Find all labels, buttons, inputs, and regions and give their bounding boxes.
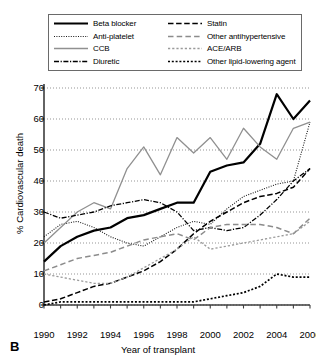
legend-item-ace-arb: ACE/ARB — [167, 43, 307, 56]
legend-line-sample — [167, 57, 203, 66]
x-tick-label: 1998 — [160, 330, 194, 340]
x-tick-label: 1990 — [27, 330, 61, 340]
legend-item-label: Diuretic — [93, 57, 119, 66]
legend-item-anti-platelet: Anti-platelet — [53, 30, 167, 43]
legend-item-label: Statin — [207, 19, 227, 28]
x-tick-label: 1994 — [94, 330, 128, 340]
x-tick-label: 1996 — [127, 330, 161, 340]
legend-item-label: Anti-platelet — [93, 32, 134, 41]
legend-item-diuretic: Diuretic — [53, 55, 167, 68]
series-line-ccb — [44, 122, 310, 243]
y-tick-label: 50 — [24, 146, 44, 154]
y-tick-label: 10 — [24, 270, 44, 278]
x-tick-label: 2006 — [293, 330, 316, 340]
y-axis-ticks: 010203040506070 — [22, 78, 44, 328]
legend-item-statin: Statin — [167, 17, 307, 30]
x-tick-label: 2004 — [260, 330, 294, 340]
y-tick-label: 30 — [24, 208, 44, 216]
y-tick-label: 0 — [24, 301, 44, 309]
legend-line-sample — [53, 57, 89, 66]
legend-line-sample — [167, 19, 203, 28]
legend-item-label: CCB — [93, 44, 110, 53]
series-line-diuretic — [44, 169, 310, 231]
x-axis-ticks: 199019921994199619982000200220042006 — [0, 330, 316, 344]
legend-item-label: ACE/ARB — [207, 44, 241, 53]
legend-line-sample — [167, 32, 203, 41]
legend-item-beta-blocker: Beta blocker — [53, 17, 167, 30]
legend-item-ccb: CCB — [53, 43, 167, 56]
legend-item-label: Other lipid-lowering agent — [207, 57, 296, 66]
legend-item-other-antihypertensive: Other antihypertensive — [167, 30, 307, 43]
legend-line-sample — [53, 44, 89, 53]
figure-panel: Beta blockerStatinAnti-plateletOther ant… — [0, 0, 316, 362]
chart-canvas — [0, 78, 316, 328]
series-line-ace-arb — [44, 221, 310, 283]
series-line-anti-platelet — [44, 122, 310, 246]
panel-letter: B — [10, 339, 19, 354]
x-axis-title: Year of transplant — [0, 344, 316, 355]
series-line-beta-blocker — [44, 94, 310, 261]
x-tick-label: 2000 — [193, 330, 227, 340]
x-tick-label: 2002 — [227, 330, 261, 340]
series-line-other-antihypertensive — [44, 218, 310, 271]
legend-line-sample — [53, 19, 89, 28]
chart-legend: Beta blockerStatinAnti-plateletOther ant… — [48, 14, 302, 71]
legend-line-sample — [53, 32, 89, 41]
legend-item-label: Beta blocker — [93, 19, 136, 28]
y-tick-label: 20 — [24, 239, 44, 247]
x-tick-label: 1992 — [60, 330, 94, 340]
plot-area: % Cardiovascular death 010203040506070 — [0, 78, 316, 328]
legend-line-sample — [167, 44, 203, 53]
y-tick-label: 40 — [24, 177, 44, 185]
legend-item-other-lipid-lowering-agent: Other lipid-lowering agent — [167, 55, 307, 68]
y-tick-label: 60 — [24, 115, 44, 123]
legend-item-label: Other antihypertensive — [207, 32, 285, 41]
y-tick-label: 70 — [24, 84, 44, 92]
